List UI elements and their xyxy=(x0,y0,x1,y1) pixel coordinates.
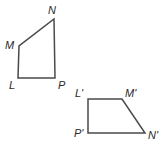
vertex-label-L: L xyxy=(9,80,15,91)
quadrilaterals-diagram xyxy=(0,0,167,150)
quadrilateral-LMNP-outline xyxy=(18,19,55,78)
geometry-figure-canvas: N M L P L' M' P' N' xyxy=(0,0,167,150)
vertex-label-P: P xyxy=(58,80,65,91)
vertex-label-M: M xyxy=(5,40,14,51)
vertex-label-M-prime: M' xyxy=(125,88,136,99)
vertex-label-L-prime: L' xyxy=(75,88,83,99)
vertex-label-N-prime: N' xyxy=(148,130,158,141)
quadrilateral-L-prime-M-prime-N-prime-P-prime-outline xyxy=(88,99,145,133)
vertex-label-N: N xyxy=(48,5,56,16)
vertex-label-P-prime: P' xyxy=(74,128,83,139)
